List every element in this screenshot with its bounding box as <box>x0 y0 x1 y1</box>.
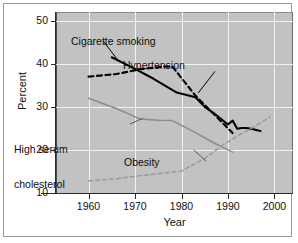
x-tick-label: 1970 <box>115 200 155 212</box>
x-tick-label: 2000 <box>254 200 294 212</box>
cholesterol-label-line1: High serum <box>14 144 68 156</box>
series-line-high-serum-cholesterol <box>89 98 233 152</box>
series-line-obesity <box>89 117 270 181</box>
cigarette-smoking-label: Cigarette smoking <box>71 36 156 48</box>
cholesterol-label-line2: cholesterol <box>14 179 68 191</box>
high-serum-cholesterol-label: High serum cholesterol <box>14 121 68 213</box>
hypertension-label: Hypertension <box>123 60 185 72</box>
leader-hypertension <box>198 71 215 93</box>
leader-obesity <box>194 150 207 161</box>
leader-cholesterol <box>130 118 143 124</box>
x-tick-label: 1960 <box>69 200 109 212</box>
x-tick-mark <box>274 194 275 199</box>
y-tick-label: 50 <box>22 15 48 26</box>
x-axis-line <box>41 193 293 194</box>
obesity-label: Obesity <box>124 157 160 169</box>
x-tick-label: 1990 <box>208 200 248 212</box>
y-tick-label: 30 <box>22 101 48 112</box>
x-tick-mark <box>228 194 229 199</box>
x-tick-mark <box>182 194 183 199</box>
x-tick-mark <box>89 194 90 199</box>
x-tick-label: 1980 <box>162 200 202 212</box>
y-tick-label: 40 <box>22 58 48 69</box>
chart-figure: Percent Year 1020304050 1960197019801990… <box>0 0 298 243</box>
x-axis-title: Year <box>56 216 293 228</box>
x-tick-mark <box>135 194 136 199</box>
